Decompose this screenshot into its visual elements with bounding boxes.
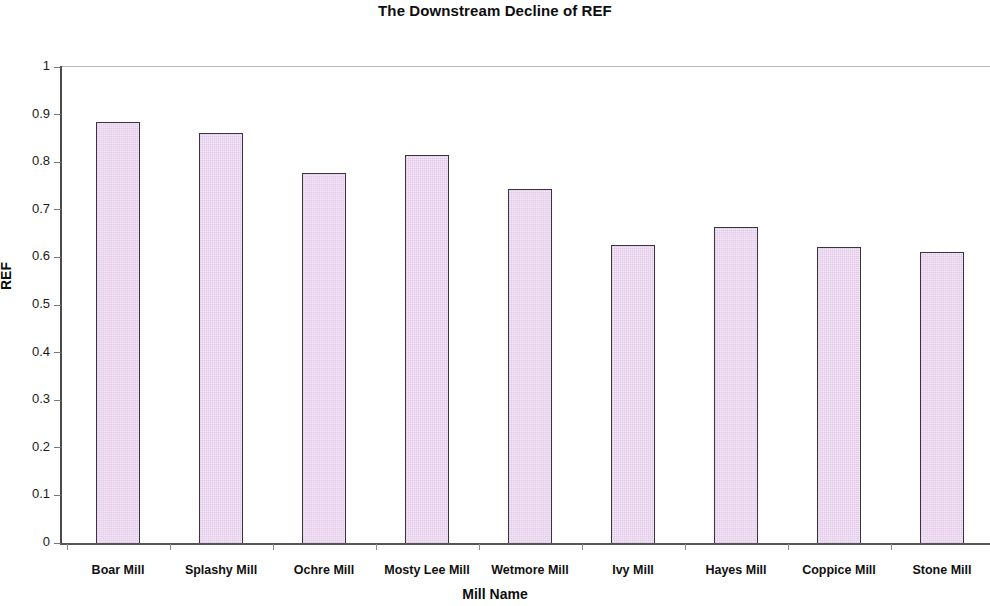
bar xyxy=(405,155,449,543)
x-axis-category-label: Boar Mill xyxy=(92,563,145,577)
x-axis-tick xyxy=(479,544,480,550)
y-axis-tick-label: 1 xyxy=(0,58,50,73)
y-axis-tick-label: 0.7 xyxy=(0,201,50,216)
x-axis-tick xyxy=(788,544,789,550)
x-axis-line xyxy=(60,543,990,545)
bar xyxy=(199,133,243,543)
x-axis-category-label: Coppice Mill xyxy=(802,563,876,577)
x-axis-tick xyxy=(582,544,583,550)
x-axis-tick xyxy=(376,544,377,550)
bar xyxy=(714,227,758,543)
y-axis-tick-label: 0.4 xyxy=(0,344,50,359)
x-axis-tick xyxy=(685,544,686,550)
bar xyxy=(508,189,552,543)
x-axis-category-label: Ivy Mill xyxy=(612,563,654,577)
y-axis-tick-label: 0 xyxy=(0,534,50,549)
x-axis-tick xyxy=(891,544,892,550)
x-axis-category-label: Mosty Lee Mill xyxy=(384,563,469,577)
x-axis-category-label: Ochre Mill xyxy=(294,563,354,577)
x-axis-category-label: Splashy Mill xyxy=(185,563,257,577)
y-axis-tick-label: 0.8 xyxy=(0,153,50,168)
bar xyxy=(611,245,655,543)
x-axis-category-label: Hayes Mill xyxy=(705,563,766,577)
chart-title: The Downstream Decline of REF xyxy=(0,2,990,19)
y-axis-tick-label: 0.2 xyxy=(0,439,50,454)
plot-area xyxy=(60,67,990,543)
x-axis-tick xyxy=(170,544,171,550)
bar xyxy=(817,247,861,543)
bar xyxy=(920,252,964,543)
bar xyxy=(302,173,346,543)
x-axis-tick xyxy=(273,544,274,550)
x-axis-tick xyxy=(67,544,68,550)
y-axis-tick-label: 0.5 xyxy=(0,296,50,311)
x-axis-title: Mill Name xyxy=(0,586,990,602)
bar-chart: The Downstream Decline of REF 00.10.20.3… xyxy=(0,0,990,606)
y-axis-title: REF xyxy=(0,262,14,290)
bar xyxy=(96,122,140,543)
x-axis-category-label: Stone Mill xyxy=(912,563,971,577)
y-axis-tick-label: 0.1 xyxy=(0,486,50,501)
y-axis-tick-label: 0.9 xyxy=(0,106,50,121)
x-axis-category-label: Wetmore Mill xyxy=(491,563,569,577)
y-axis-tick-label: 0.3 xyxy=(0,391,50,406)
